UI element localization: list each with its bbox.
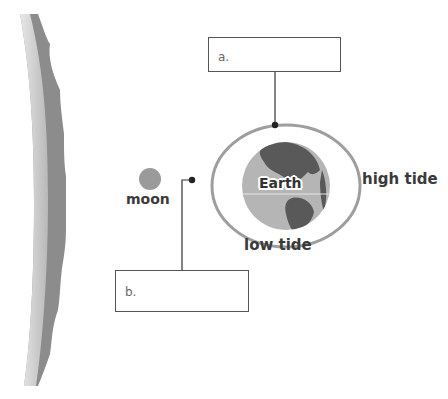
high-tide-label: high tide xyxy=(362,170,438,188)
leader-line-b xyxy=(182,177,195,270)
answer-box-a[interactable]: a. xyxy=(208,37,341,72)
leader-line-a xyxy=(272,71,278,128)
earth-label: Earth xyxy=(259,175,302,191)
answer-box-b-letter: b. xyxy=(125,285,136,299)
moon-icon xyxy=(139,168,161,190)
low-tide-label: low tide xyxy=(244,236,312,254)
sun-edge xyxy=(20,14,66,386)
answer-box-b[interactable]: b. xyxy=(115,270,249,312)
moon-label: moon xyxy=(126,191,170,207)
answer-box-a-letter: a. xyxy=(218,50,229,64)
